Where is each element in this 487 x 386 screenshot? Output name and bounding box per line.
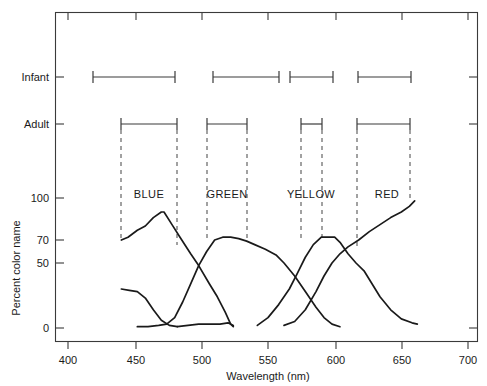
chart-container: 100 70 50 0 Infant Adult 400 450 500 550… bbox=[0, 0, 487, 386]
band-label-green: GREEN bbox=[206, 188, 247, 200]
x-axis-title: Wavelength (nm) bbox=[226, 370, 309, 382]
band-label-red: RED bbox=[375, 188, 399, 200]
y-axis-title: Percent color name bbox=[10, 220, 22, 315]
band-label-yellow: YELLOW bbox=[287, 188, 335, 200]
y-tick-label-0: 0 bbox=[43, 322, 49, 334]
y-tick-label-70: 70 bbox=[37, 234, 49, 246]
x-tick-label-650: 650 bbox=[393, 354, 411, 366]
band-label-blue: BLUE bbox=[134, 188, 164, 200]
x-tick-label-450: 450 bbox=[127, 354, 145, 366]
color-naming-chart: 100 70 50 0 Infant Adult 400 450 500 550… bbox=[0, 0, 487, 386]
y-tick-label-100: 100 bbox=[31, 192, 49, 204]
x-tick-label-400: 400 bbox=[59, 354, 77, 366]
x-tick-label-600: 600 bbox=[327, 354, 345, 366]
x-tick-label-500: 500 bbox=[193, 354, 211, 366]
x-tick-label-550: 550 bbox=[259, 354, 277, 366]
row-label-infant: Infant bbox=[21, 71, 49, 83]
x-tick-label-700: 700 bbox=[459, 354, 477, 366]
row-label-adult: Adult bbox=[24, 118, 49, 130]
y-tick-label-50: 50 bbox=[37, 257, 49, 269]
